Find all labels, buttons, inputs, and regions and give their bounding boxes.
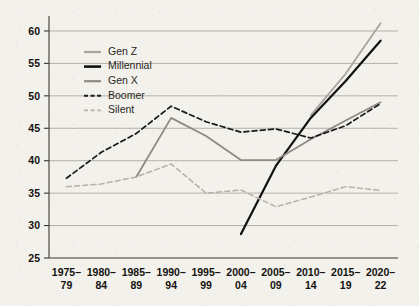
x-axis-label-7: 2010–14 (296, 266, 325, 291)
series-line-gen-z (311, 23, 381, 115)
series-line-silent (66, 164, 380, 207)
y-axis-label-50: 50 (28, 90, 40, 102)
y-axis-label-40: 40 (28, 154, 40, 166)
y-axis-label-60: 60 (28, 25, 40, 37)
x-axis-label-9: 2020–22 (366, 266, 395, 291)
x-axis-label-6: 2005–09 (261, 266, 290, 291)
x-axis-label-5: 2000–04 (226, 266, 255, 291)
x-axis-label-3: 1990–94 (157, 266, 186, 291)
y-axis-label-30: 30 (28, 219, 40, 231)
x-axis-label-1: 1980–84 (87, 266, 116, 291)
x-axis-label-8: 2015–19 (331, 266, 360, 291)
legend-label-gen-x: Gen X (108, 74, 138, 86)
y-axis-label-55: 55 (28, 57, 40, 69)
legend-label-boomer: Boomer (108, 89, 145, 101)
legend-label-silent: Silent (108, 103, 134, 115)
y-axis-label-25: 25 (28, 252, 40, 264)
chart-canvas: 25303540455055601975–791980–841985–89199… (0, 0, 419, 306)
legend-label-millennial: Millennial (108, 59, 152, 71)
x-axis-label-0: 1975–79 (52, 266, 81, 291)
x-axis-label-2: 1985–89 (122, 266, 151, 291)
legend-label-gen-z: Gen Z (108, 45, 138, 57)
y-axis-label-35: 35 (28, 187, 40, 199)
line-chart: 25303540455055601975–791980–841985–89199… (0, 0, 419, 306)
x-axis-label-4: 1995–99 (191, 266, 220, 291)
y-axis-label-45: 45 (28, 122, 40, 134)
